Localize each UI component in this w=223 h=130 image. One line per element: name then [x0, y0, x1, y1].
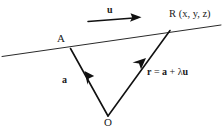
point-o-label: O — [104, 117, 112, 128]
point-a-label: A — [57, 33, 65, 44]
vector-a-shaft — [71, 49, 109, 117]
equation-term-u: u — [183, 66, 189, 77]
vector-r-equation-label: r = a + λu — [147, 67, 188, 77]
vector-diagram: u R (x, y, z) A a O r = a + λu — [0, 0, 223, 130]
vector-u-label: u — [107, 5, 113, 15]
vector-a-label: a — [62, 75, 67, 85]
infinite-line — [2, 25, 221, 57]
vector-diagram-canvas — [0, 0, 223, 130]
point-r-label: R (x, y, z) — [169, 9, 211, 20]
vector-u-shaft — [88, 18, 137, 22]
